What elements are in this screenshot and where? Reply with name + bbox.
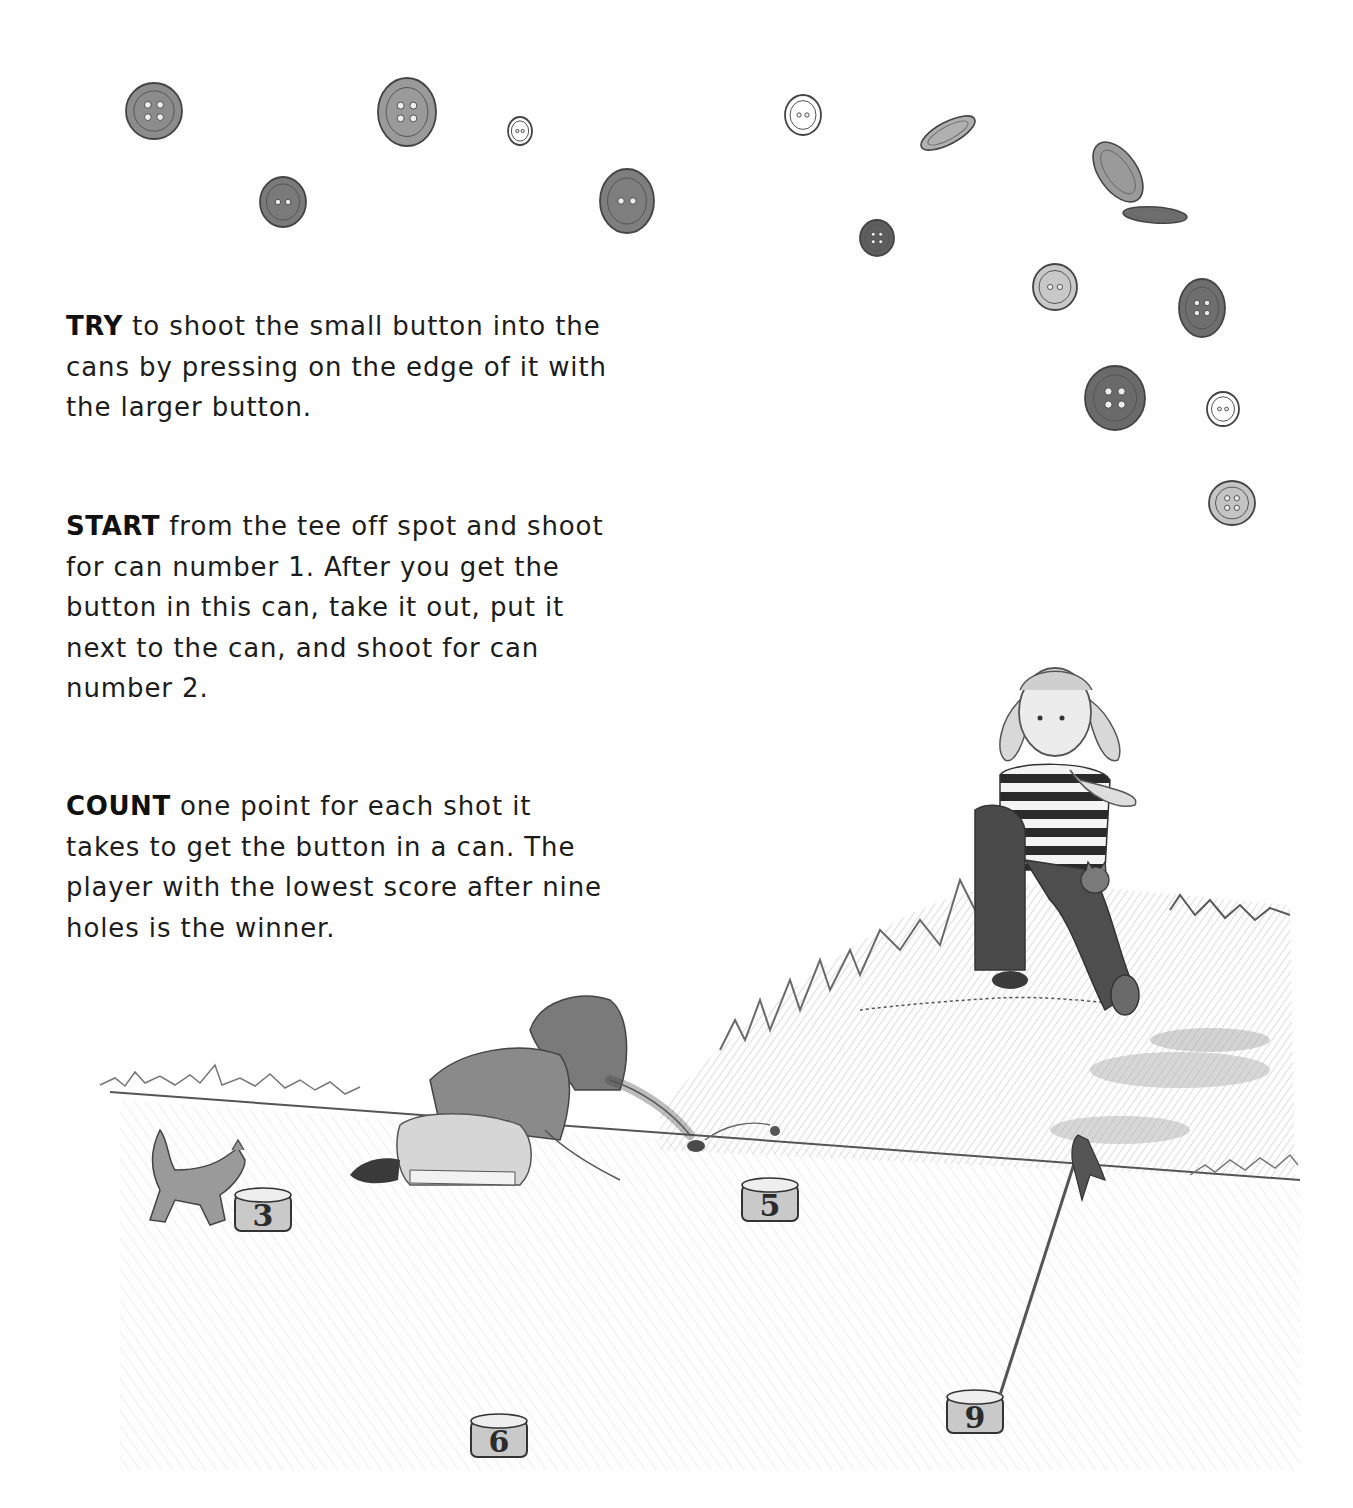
girl-sitting-on-hill bbox=[975, 668, 1139, 1015]
can-number-label: 3 bbox=[253, 1198, 274, 1233]
button-icon bbox=[378, 78, 436, 146]
kitten-near-can-3 bbox=[150, 1130, 245, 1225]
button-tilted-icon bbox=[1083, 133, 1153, 210]
hill bbox=[660, 880, 1295, 1180]
button-icon bbox=[1179, 279, 1225, 337]
cans: 3569 bbox=[235, 1178, 1003, 1459]
button-icon bbox=[1209, 481, 1255, 525]
keyword-start: START bbox=[66, 511, 160, 541]
button-icon bbox=[860, 220, 894, 256]
keyword-try: TRY bbox=[66, 311, 123, 341]
button-icon bbox=[785, 95, 821, 135]
button-tilted-icon bbox=[916, 109, 979, 157]
can-5: 5 bbox=[742, 1178, 798, 1223]
kitten-in-lap bbox=[1081, 862, 1109, 893]
horizon-line bbox=[100, 1065, 1300, 1180]
button-icon bbox=[600, 169, 654, 233]
illustration: 3569 bbox=[0, 0, 1353, 1508]
button-icon bbox=[508, 117, 532, 145]
girl-kneeling bbox=[350, 996, 780, 1185]
button-icon bbox=[1207, 392, 1239, 426]
can-3: 3 bbox=[235, 1188, 291, 1233]
keyword-count: COUNT bbox=[66, 791, 171, 821]
can-number-label: 5 bbox=[760, 1188, 781, 1223]
can-9: 9 bbox=[947, 1390, 1003, 1435]
flag bbox=[1000, 1135, 1105, 1395]
can-number-label: 9 bbox=[965, 1400, 986, 1435]
instruction-try-text: to shoot the small button into the cans … bbox=[66, 311, 607, 422]
button-icon bbox=[1033, 264, 1077, 310]
buttons-scattered bbox=[126, 78, 1255, 525]
button-tilted-icon bbox=[1123, 205, 1188, 225]
button-icon bbox=[260, 177, 306, 227]
instruction-count: COUNT one point for each shot it takes t… bbox=[66, 786, 656, 948]
book-page: 3569 TRY to shoot the small button into … bbox=[0, 0, 1353, 1508]
can-number-label: 6 bbox=[489, 1424, 510, 1459]
button-icon bbox=[1085, 366, 1145, 430]
ground-shading bbox=[120, 1100, 1300, 1470]
button-icon bbox=[126, 83, 182, 139]
can-6: 6 bbox=[471, 1414, 527, 1459]
instruction-start: START from the tee off spot and shoot fo… bbox=[66, 506, 656, 709]
instruction-try: TRY to shoot the small button into the c… bbox=[66, 306, 656, 428]
